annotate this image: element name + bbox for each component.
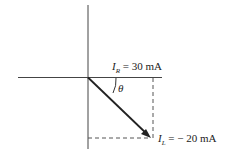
- phasor-diagram: θ IR = 30 mA IL = − 20 mA: [0, 0, 232, 157]
- il-equals: =: [166, 132, 178, 144]
- il-label: IL = − 20 mA: [157, 132, 217, 147]
- ir-label: IR = 30 mA: [111, 60, 162, 75]
- ir-value: 30 mA: [132, 60, 162, 72]
- theta-angle-arc: [113, 78, 116, 93]
- il-value: − 20 mA: [177, 132, 216, 144]
- theta-label: θ: [118, 82, 124, 94]
- ir-equals: =: [120, 60, 132, 72]
